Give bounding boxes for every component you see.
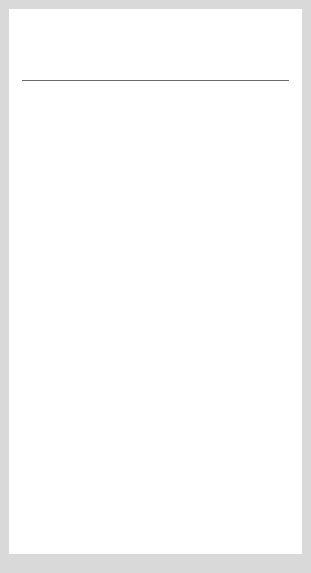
figure-card: [9, 9, 302, 554]
chart-top-panel: [22, 93, 289, 293]
figure-header: [22, 21, 287, 23]
chart-bottom-panel: [22, 309, 289, 505]
argentina-brazil-mexico-line-chart: [22, 309, 289, 505]
latin-america-asia-line-chart: [22, 93, 289, 293]
title-divider: [22, 80, 289, 81]
